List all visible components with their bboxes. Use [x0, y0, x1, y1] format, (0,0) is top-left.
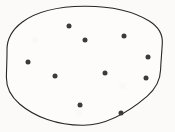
- data-point: [83, 38, 88, 43]
- data-point: [103, 71, 108, 76]
- data-point: [144, 76, 149, 81]
- data-point: [78, 103, 83, 108]
- set-diagram-figure: [0, 0, 175, 132]
- data-point: [146, 55, 151, 60]
- data-point: [67, 24, 72, 29]
- data-point: [26, 60, 31, 65]
- data-point: [53, 74, 58, 79]
- data-point: [119, 111, 124, 116]
- data-point: [122, 34, 127, 39]
- diagram-canvas: [0, 0, 175, 132]
